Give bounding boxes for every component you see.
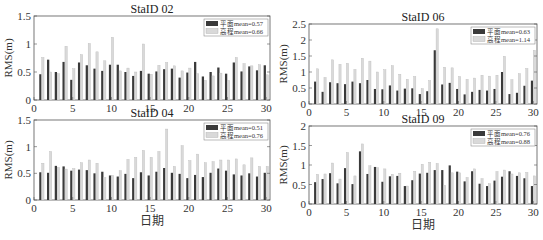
bar [376,72,378,104]
bar [86,65,88,100]
bar [441,84,443,104]
bar [436,163,438,204]
x-tick-label: 20 [453,106,465,118]
bar [396,176,398,204]
bar [181,71,183,100]
bar [171,173,173,200]
bar [488,184,490,204]
bar [173,66,175,100]
y-tick-label: 0.5 [17,66,31,78]
bar [258,65,260,100]
bar [411,88,413,104]
y-tick-label: 2 [301,120,307,132]
bar [464,94,466,104]
bar [389,85,391,104]
bar [101,172,103,200]
y-tick-label: 0.5 [292,82,306,94]
bar [374,167,376,204]
bar [486,186,488,204]
bar [124,174,126,200]
bar [414,171,416,204]
bar [57,167,59,200]
bar [488,76,490,104]
bar [235,159,237,200]
x-tick-label: 25 [222,202,234,214]
bar [233,174,235,200]
y-tick-label: 1 [301,159,307,171]
bar [436,29,438,104]
bar [111,175,113,200]
bar [411,180,413,204]
bar [526,68,528,104]
bar [135,72,137,100]
bar [366,174,368,204]
bar [70,80,72,100]
bar [501,72,503,104]
bar [473,78,475,104]
bar [47,60,49,100]
legend-swatch [473,131,485,136]
bar [339,64,341,104]
bar [346,63,348,104]
bar [419,94,421,104]
bar [324,77,326,104]
bar [471,171,473,204]
bar [337,183,339,204]
bar [406,79,408,104]
bar [369,166,371,204]
bar [429,81,431,104]
bar [503,170,505,204]
bar [354,69,356,104]
bar [337,83,339,104]
bar [324,174,326,204]
bar [516,176,518,204]
y-tick-label: 2 [301,34,307,46]
bar [264,173,266,200]
bar [39,172,41,200]
bar [451,68,453,104]
bar [49,151,51,200]
bar [55,72,57,100]
bar [124,72,126,100]
bar [173,166,175,200]
bar [227,160,229,200]
bar [220,160,222,200]
x-tick-label: 0 [306,206,312,218]
bar [481,75,483,104]
bar [459,173,461,204]
x-tick-label: 15 [416,206,428,218]
bar [117,65,119,100]
bar [104,178,106,200]
bar [256,177,258,200]
bar [434,50,436,104]
bar [150,74,152,100]
bar [344,168,346,204]
bar [217,169,219,200]
bar [508,171,510,204]
bar [374,89,376,104]
bar [148,74,150,100]
bar [511,80,513,104]
bar [109,65,111,100]
bar [444,67,446,104]
bar [459,76,461,104]
bar [381,182,383,204]
bar [127,68,129,100]
bar [359,83,361,104]
bar [158,151,160,200]
bar [421,164,423,204]
bar [73,69,75,100]
x-tick-label: 10 [378,106,390,118]
bar [140,71,142,100]
bar [248,173,250,200]
bar [493,181,495,204]
bar [518,173,520,204]
bar [158,65,160,100]
bar [196,154,198,200]
bar [404,89,406,104]
bar [486,91,488,104]
bar [163,69,165,100]
bar [194,62,196,100]
bar [49,72,51,100]
bar [496,172,498,204]
